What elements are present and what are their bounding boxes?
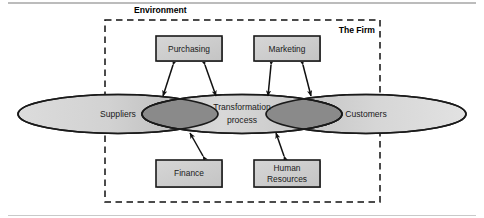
arrow-marketing-in: [268, 65, 271, 96]
environment-label: Environment: [134, 5, 187, 15]
ellipse-label-transformation-line1: Transformation: [213, 102, 271, 112]
box-finance: Finance: [156, 160, 223, 188]
box-label-finance: Finance: [174, 168, 204, 178]
box-human-resources: Human Resources: [254, 160, 321, 188]
arrow-finance: [190, 133, 203, 156]
systems-diagram-figure: Suppliers Transformation process Custome…: [0, 0, 484, 218]
diagram-canvas: Suppliers Transformation process Custome…: [0, 0, 484, 218]
ellipse-label-suppliers: Suppliers: [100, 109, 136, 119]
box-label-purchasing: Purchasing: [168, 44, 210, 54]
arrow-marketing-out: [303, 65, 311, 96]
arrow-purchasing-out: [205, 65, 216, 96]
ellipse-label-customers: Customers: [345, 109, 387, 119]
box-marketing: Marketing: [254, 36, 321, 62]
the-firm-label: The Firm: [339, 25, 376, 35]
box-purchasing: Purchasing: [156, 36, 223, 62]
arrow-purchasing-in: [163, 65, 173, 96]
box-label-marketing: Marketing: [269, 44, 306, 54]
box-label-human-resources-line2: Resources: [267, 174, 307, 184]
ellipse-label-transformation-line2: process: [227, 115, 257, 125]
arrow-human-resources: [276, 133, 284, 156]
box-label-human-resources-line1: Human: [274, 163, 301, 173]
